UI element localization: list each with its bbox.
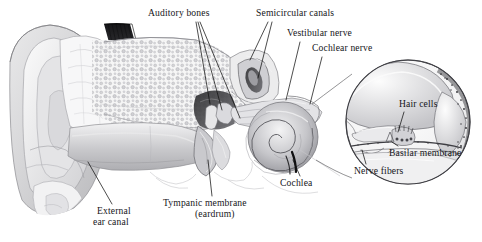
label-vestibular-nerve: Vestibular nerve <box>287 28 352 39</box>
label-semicircular-canals: Semicircular canals <box>256 8 334 19</box>
ear-anatomy-figure: Auditory bones Semicircular canals Vesti… <box>0 0 482 242</box>
label-tympanic-membrane: Tympanic membrane <box>163 198 247 209</box>
label-cochlear-nerve: Cochlear nerve <box>312 43 372 54</box>
label-auditory-bones: Auditory bones <box>148 8 210 19</box>
label-hair-cells: Hair cells <box>399 99 438 110</box>
label-basilar-membrane: Basilar membrane <box>389 148 461 159</box>
external-ear-canal <box>68 123 212 171</box>
label-tympanic-eardrum: (eardrum) <box>195 209 235 220</box>
label-external-canal-line1: External <box>97 206 131 217</box>
label-external-canal-line2: ear canal <box>93 217 129 228</box>
label-cochlea: Cochlea <box>280 178 312 189</box>
label-nerve-fibers: Nerve fibers <box>354 166 403 177</box>
